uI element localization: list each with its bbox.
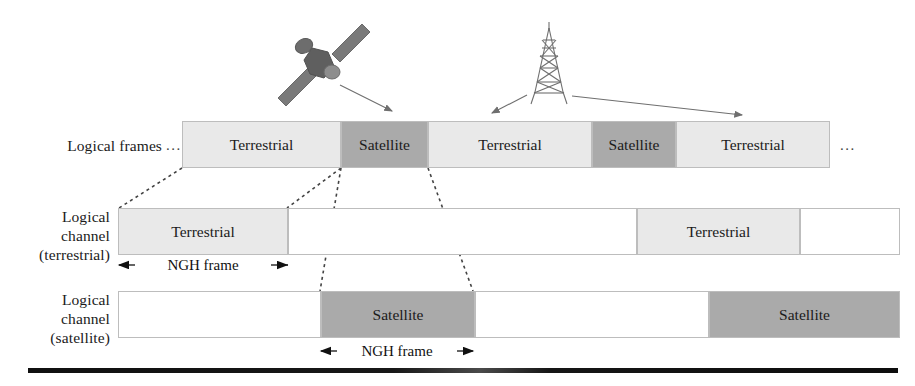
bottom-divider-bar: [28, 368, 898, 373]
satellite-icon: [278, 24, 370, 106]
channel-cell-terrestrial-1[interactable]: Terrestrial: [118, 208, 288, 255]
satellite-channel-cell-satellite-1[interactable]: Satellite: [321, 291, 475, 338]
tower-link-arrow-right: [572, 96, 742, 115]
frame-cell-terrestrial-1[interactable]: Terrestrial: [182, 121, 341, 168]
satellite-channel-cell-satellite-2[interactable]: Satellite: [709, 291, 900, 338]
channel-cell-label: Satellite: [373, 306, 424, 324]
logical-frames-trailing-ellipsis: ...: [840, 137, 856, 154]
logical-channel-terrestrial-label-line1: Logical: [10, 207, 110, 226]
ngh-frame-measure-terrestrial: NGH frame: [139, 256, 267, 274]
satellite-link-arrow: [340, 85, 392, 111]
frame-cell-label: Terrestrial: [478, 136, 541, 154]
satellite-channel-cell-empty-2[interactable]: [475, 291, 709, 338]
logical-frames-row: Terrestrial Satellite Terrestrial Satell…: [182, 121, 830, 168]
logical-channel-terrestrial-label-line2: channel: [10, 226, 110, 245]
logical-channel-satellite-label-line2: channel: [10, 309, 110, 328]
diagram-canvas: Logical frames ... Terrestrial Satellite…: [0, 0, 915, 386]
channel-cell-terrestrial-2[interactable]: Terrestrial: [637, 208, 800, 255]
map-line-terrestrial-right: [287, 168, 341, 208]
frame-cell-label: Satellite: [609, 136, 660, 154]
logical-channel-terrestrial-row: Terrestrial Terrestrial: [118, 208, 898, 255]
frame-cell-satellite-1[interactable]: Satellite: [341, 121, 428, 168]
channel-cell-label: Terrestrial: [171, 223, 234, 241]
channel-cell-empty-2[interactable]: [800, 208, 900, 255]
frame-cell-terrestrial-3[interactable]: Terrestrial: [676, 121, 830, 168]
frame-cell-label: Terrestrial: [230, 136, 293, 154]
logical-channel-satellite-label-line1: Logical: [10, 290, 110, 309]
frame-cell-terrestrial-2[interactable]: Terrestrial: [428, 121, 592, 168]
logical-channel-satellite-row: Satellite Satellite: [118, 291, 898, 338]
frame-cell-satellite-2[interactable]: Satellite: [592, 121, 676, 168]
satellite-channel-cell-empty-1[interactable]: [118, 291, 321, 338]
ngh-frame-measure-satellite: NGH frame: [341, 342, 453, 360]
map-line-terrestrial-left: [119, 168, 182, 208]
logical-channel-satellite-label-line3: (satellite): [5, 328, 110, 347]
channel-cell-empty-1[interactable]: [288, 208, 637, 255]
logical-frames-leading-ellipsis: ...: [166, 137, 182, 154]
logical-frames-label: Logical frames: [28, 136, 162, 155]
channel-cell-label: Satellite: [779, 306, 830, 324]
channel-cell-label: Terrestrial: [687, 223, 750, 241]
broadcast-tower-icon: [531, 22, 567, 104]
frame-cell-label: Terrestrial: [721, 136, 784, 154]
logical-channel-terrestrial-label-line3: (terrestrial): [0, 245, 110, 264]
tower-link-arrow-left: [492, 95, 527, 113]
frame-cell-label: Satellite: [359, 136, 410, 154]
